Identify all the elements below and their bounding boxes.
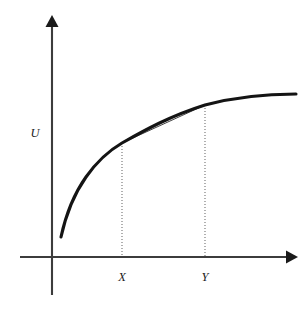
- utility-curve-path: [61, 94, 296, 237]
- x-tick-label-y: Y: [202, 270, 211, 284]
- x-tick-label-x: X: [117, 270, 127, 284]
- diagram-canvas: U X Y: [0, 0, 307, 313]
- y-axis-arrowhead-icon: [46, 15, 59, 27]
- y-axis-label: U: [30, 126, 40, 140]
- x-axis-arrowhead-icon: [286, 251, 298, 264]
- utility-function-diagram: U X Y: [0, 0, 307, 313]
